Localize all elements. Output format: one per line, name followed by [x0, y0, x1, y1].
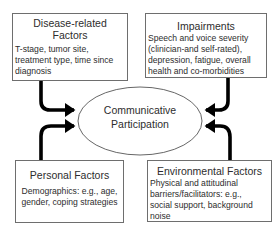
- environmental-factors-title: Environmental Factors: [148, 165, 271, 177]
- body-line: depression, fatigue, overall: [148, 55, 266, 66]
- arrow-disease-to-center: [41, 81, 74, 110]
- center-label: Communicative Participation: [78, 103, 202, 131]
- body-line: diagnosis: [15, 66, 127, 77]
- body-line: social support, background: [150, 200, 271, 211]
- environmental-factors-box: Environmental Factors Physical and attit…: [147, 160, 272, 222]
- body-line: Speech and voice severity: [148, 33, 266, 44]
- disease-related-factors-box: Disease-related Factors T-stage, tumor s…: [12, 13, 128, 81]
- body-line: Demographics: e.g., age,: [16, 186, 123, 197]
- impairments-body: Speech and voice severity (clinician-and…: [146, 33, 266, 77]
- body-line: treatment type, time since: [15, 55, 127, 66]
- center-label-line2: Participation: [78, 117, 202, 131]
- disease-related-title-line2: Factors: [13, 29, 127, 41]
- body-line: gender, coping strategies: [16, 197, 123, 208]
- impairments-box: Impairments Speech and voice severity (c…: [145, 13, 267, 78]
- arrow-impairments-to-center: [206, 78, 228, 110]
- impairments-title: Impairments: [146, 20, 266, 32]
- arrow-personal-to-center: [41, 126, 74, 160]
- body-line: (clinician-and self-rated),: [148, 44, 266, 55]
- body-line: T-stage, tumor site,: [15, 44, 127, 55]
- body-line: health and co-morbidities: [148, 66, 266, 77]
- disease-related-title-line1: Disease-related: [13, 17, 127, 29]
- arrow-environmental-to-center: [206, 126, 230, 160]
- body-line: barriers/facilitators: e.g.,: [150, 189, 271, 200]
- personal-factors-title: Personal Factors: [16, 169, 123, 181]
- center-label-line1: Communicative: [78, 103, 202, 117]
- disease-related-body: T-stage, tumor site, treatment type, tim…: [13, 44, 127, 77]
- personal-factors-body: Demographics: e.g., age, gender, coping …: [16, 186, 123, 208]
- body-line: Physical and attitudinal: [150, 178, 271, 189]
- environmental-factors-body: Physical and attitudinal barriers/facili…: [148, 178, 271, 222]
- body-line: noise: [150, 211, 271, 222]
- personal-factors-box: Personal Factors Demographics: e.g., age…: [15, 160, 124, 223]
